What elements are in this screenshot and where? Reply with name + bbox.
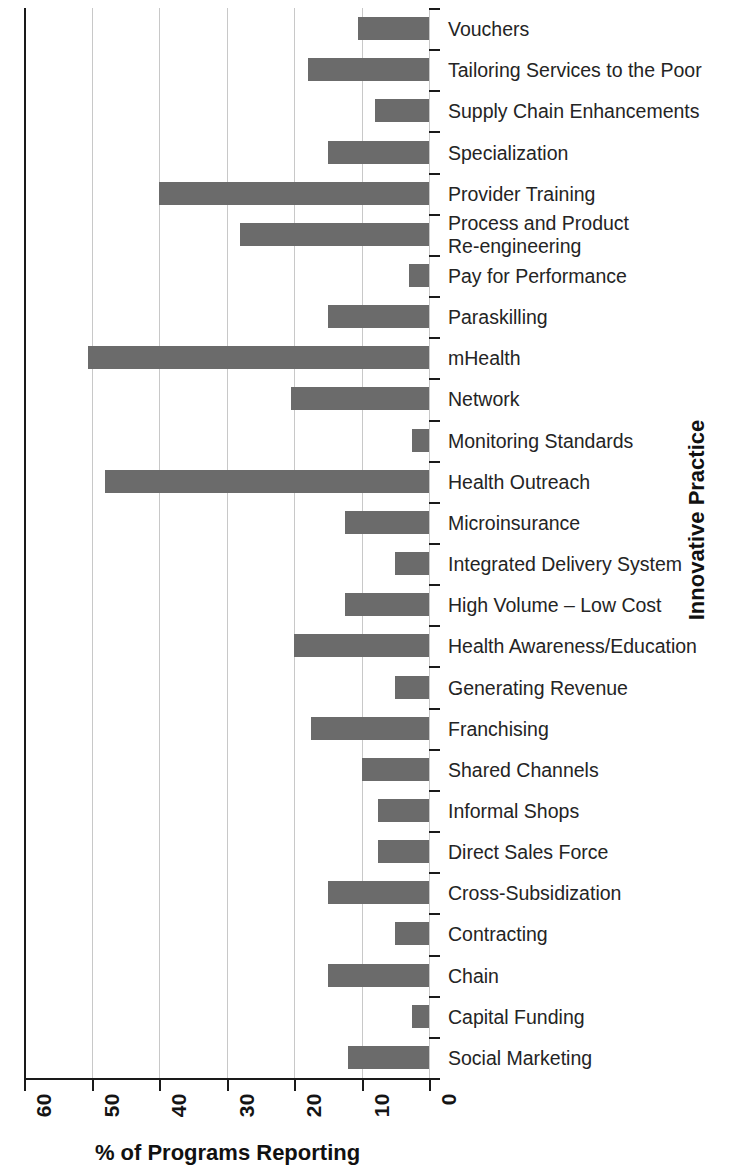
category-label: Health Outreach xyxy=(448,471,590,494)
x-axis-tick xyxy=(24,1080,26,1091)
bar[interactable] xyxy=(105,470,429,493)
bar-row xyxy=(24,1037,429,1078)
bar-row xyxy=(24,666,429,707)
plot-area xyxy=(24,8,429,1078)
bar[interactable] xyxy=(395,552,429,575)
category-label: Process and Product Re-engineering xyxy=(448,212,629,258)
y-axis-tick xyxy=(429,8,440,10)
bar-row xyxy=(24,913,429,954)
bar[interactable] xyxy=(291,387,429,410)
category-label: Shared Channels xyxy=(448,759,599,782)
y-axis-tick xyxy=(429,502,440,504)
x-axis-title: % of Programs Reporting xyxy=(24,1140,431,1166)
x-axis-tick xyxy=(227,1080,229,1091)
bar[interactable] xyxy=(412,1005,429,1028)
y-axis-tick xyxy=(429,831,440,833)
y-axis-tick xyxy=(429,872,440,874)
y-axis-tick xyxy=(429,790,440,792)
bar[interactable] xyxy=(412,429,429,452)
bar[interactable] xyxy=(348,1046,429,1069)
bar-row xyxy=(24,173,429,214)
bar[interactable] xyxy=(328,881,429,904)
category-label: Informal Shops xyxy=(448,800,579,823)
category-label: Monitoring Standards xyxy=(448,430,633,453)
bar[interactable] xyxy=(358,17,429,40)
bar-row xyxy=(24,49,429,90)
bar[interactable] xyxy=(395,922,429,945)
category-label: Social Marketing xyxy=(448,1047,592,1070)
bar[interactable] xyxy=(362,758,430,781)
y-axis-tick xyxy=(429,543,440,545)
category-label: Cross-Subsidization xyxy=(448,882,621,905)
x-axis-tick-label: 50 xyxy=(100,1093,124,1139)
y-axis-tick xyxy=(429,955,440,957)
y-axis-tick xyxy=(429,1078,440,1080)
bar-row xyxy=(24,296,429,337)
bar[interactable] xyxy=(308,58,430,81)
bar[interactable] xyxy=(328,305,429,328)
y-axis-tick xyxy=(429,749,440,751)
bar[interactable] xyxy=(395,676,429,699)
y-axis-line xyxy=(24,8,26,1078)
x-axis-tick-label: 0 xyxy=(437,1093,461,1139)
bar[interactable] xyxy=(159,182,429,205)
bar-row xyxy=(24,831,429,872)
y-axis-title: Innovative Practice xyxy=(684,370,710,670)
category-label: High Volume – Low Cost xyxy=(448,594,662,617)
category-label: Network xyxy=(448,388,520,411)
category-label: Paraskilling xyxy=(448,306,548,329)
bar[interactable] xyxy=(375,99,429,122)
x-axis-tick-label: 20 xyxy=(302,1093,326,1139)
y-axis-tick xyxy=(429,1037,440,1039)
category-label: Microinsurance xyxy=(448,512,580,535)
y-axis-tick xyxy=(429,173,440,175)
bar[interactable] xyxy=(328,141,429,164)
bar[interactable] xyxy=(378,799,429,822)
category-label: Pay for Performance xyxy=(448,265,627,288)
category-label: Integrated Delivery System xyxy=(448,553,682,576)
bar[interactable] xyxy=(328,964,429,987)
bar-row xyxy=(24,378,429,419)
category-label: Health Awareness/Education xyxy=(448,635,697,658)
bar[interactable] xyxy=(311,717,429,740)
y-axis-tick xyxy=(429,378,440,380)
x-axis-tick-label: 40 xyxy=(167,1093,191,1139)
bar-chart-figure: % of Programs Reporting Innovative Pract… xyxy=(0,0,752,1170)
category-label: Supply Chain Enhancements xyxy=(448,100,700,123)
y-axis-tick xyxy=(429,49,440,51)
bar-row xyxy=(24,543,429,584)
x-axis-tick-label: 60 xyxy=(32,1093,56,1139)
x-axis-tick-label: 10 xyxy=(370,1093,394,1139)
x-axis-tick xyxy=(92,1080,94,1091)
category-label: Franchising xyxy=(448,718,549,741)
category-label: Contracting xyxy=(448,923,548,946)
bar[interactable] xyxy=(409,264,429,287)
bar-row xyxy=(24,749,429,790)
bar[interactable] xyxy=(294,634,429,657)
category-label: mHealth xyxy=(448,347,521,370)
category-label: Direct Sales Force xyxy=(448,841,608,864)
bar[interactable] xyxy=(345,593,429,616)
x-axis-tick xyxy=(429,1080,431,1091)
bar-row xyxy=(24,872,429,913)
bar[interactable] xyxy=(88,346,429,369)
bar-row xyxy=(24,461,429,502)
bar-row xyxy=(24,790,429,831)
bar-row xyxy=(24,90,429,131)
y-axis-tick xyxy=(429,584,440,586)
y-axis-tick xyxy=(429,708,440,710)
y-axis-tick xyxy=(429,255,440,257)
y-axis-tick xyxy=(429,214,440,216)
category-label: Vouchers xyxy=(448,18,529,41)
bar[interactable] xyxy=(378,840,429,863)
bar[interactable] xyxy=(345,511,429,534)
bar-row xyxy=(24,131,429,172)
x-axis-tick xyxy=(159,1080,161,1091)
bar-row xyxy=(24,584,429,625)
y-axis-tick xyxy=(429,90,440,92)
x-axis-tick xyxy=(294,1080,296,1091)
bar-row xyxy=(24,955,429,996)
bar[interactable] xyxy=(240,223,429,246)
bar-row xyxy=(24,214,429,255)
x-axis-tick-label: 30 xyxy=(235,1093,259,1139)
